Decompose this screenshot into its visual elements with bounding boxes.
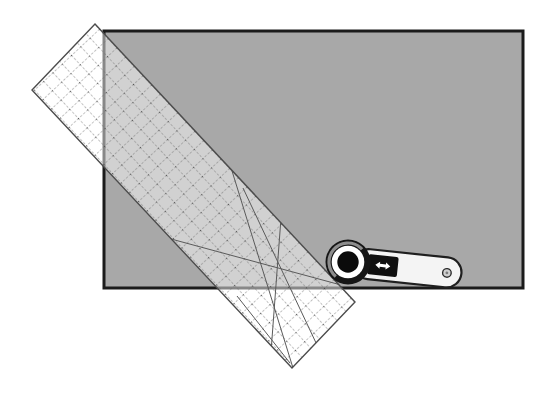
illustration-stage bbox=[0, 0, 552, 393]
blade-center bbox=[337, 251, 358, 272]
illustration-canvas bbox=[0, 0, 552, 393]
